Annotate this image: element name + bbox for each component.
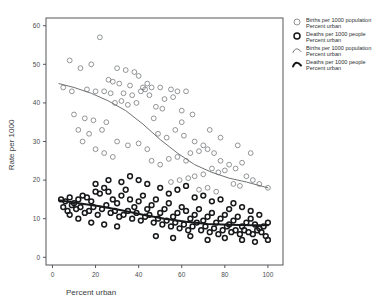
- x-tick-label: 20: [92, 271, 100, 278]
- x-tick-label: 100: [262, 271, 273, 278]
- legend-label-secondary: Percent urban: [306, 65, 341, 71]
- x-tick-label: 0: [51, 271, 55, 278]
- chart-container: 0102030405060 020406080100 Rate per 1000…: [0, 0, 380, 306]
- x-tick-label: 40: [135, 271, 143, 278]
- x-axis-title: Percent urban: [66, 288, 116, 297]
- y-tick-label: 10: [33, 215, 41, 222]
- legend-label-secondary: Percent urban: [306, 37, 341, 43]
- x-tick-label: 60: [178, 271, 186, 278]
- y-tick-label: 0: [36, 254, 40, 261]
- y-tick-label: 20: [33, 176, 41, 183]
- y-tick-label: 50: [33, 61, 41, 68]
- legend-label-secondary: Percent urban: [306, 51, 341, 57]
- y-tick-label: 30: [33, 138, 41, 145]
- scatter-plot: 0102030405060 020406080100 Rate per 1000…: [0, 0, 380, 306]
- x-tick-label: 80: [221, 271, 229, 278]
- y-tick-label: 60: [33, 22, 41, 29]
- legend-label-secondary: Percent urban: [306, 23, 341, 29]
- y-axis-title: Rate per 1000: [7, 119, 16, 170]
- y-tick-label: 40: [33, 99, 41, 106]
